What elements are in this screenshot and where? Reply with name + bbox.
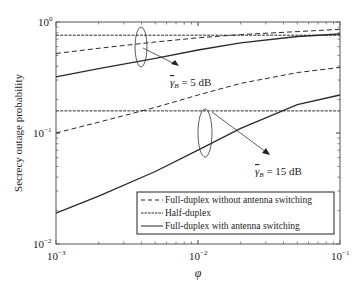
legend-label-half-duplex: Half-duplex — [165, 208, 211, 218]
legend-label-fd-without: Full-duplex without antenna switching — [165, 195, 312, 205]
x-tick-0.1: 10−1 — [331, 249, 350, 262]
y-tick-1: 100 — [38, 15, 53, 28]
x-axis-label: φ — [195, 266, 202, 280]
x-tick-0.001: 10−3 — [47, 249, 66, 262]
y-tick-labels: 100 10−1 10−2 — [33, 15, 53, 250]
y-tick-0.1: 10−1 — [33, 126, 52, 139]
legend: Full-duplex without antenna switching Ha… — [137, 192, 334, 234]
x-tick-labels: 10−3 10−2 10−1 — [47, 249, 350, 262]
y-axis-label: Secrecy outage probability — [12, 74, 24, 192]
x-tick-0.01: 10−2 — [189, 249, 208, 262]
y-tick-0.01: 10−2 — [33, 237, 52, 250]
chart: 100 10−1 10−2 10−3 10−2 10−1 φ Secrecy o… — [0, 0, 361, 285]
legend-label-fd-with: Full-duplex with antenna switching — [165, 221, 300, 231]
